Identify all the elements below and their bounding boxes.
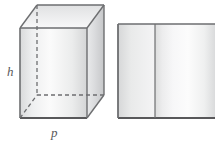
base-label: p [51, 126, 58, 139]
panel-left-section [118, 24, 155, 118]
rectangular-panel [118, 24, 215, 118]
figure-canvas: h p [0, 0, 215, 144]
rectangular-prism [20, 5, 104, 118]
height-label: h [7, 65, 14, 78]
panel-right-section [155, 24, 215, 118]
figure-svg [0, 0, 215, 144]
